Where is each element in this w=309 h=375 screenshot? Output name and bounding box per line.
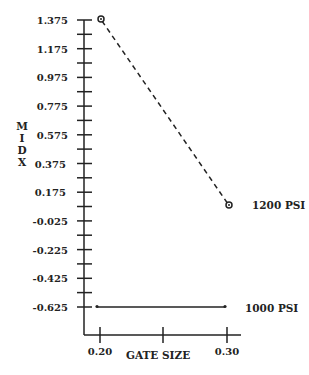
y-tick-label: -0.225 <box>33 245 69 256</box>
x-tick-label: 0.20 <box>88 346 112 357</box>
y-tick-label: 1.375 <box>37 15 68 26</box>
y-tick-label: 0.575 <box>37 130 68 141</box>
y-tick-label: 1.175 <box>37 44 68 55</box>
y-tick-label: 0.975 <box>37 72 68 83</box>
y-tick-label: 0.375 <box>35 159 66 170</box>
svg-text:D: D <box>17 144 26 156</box>
y-tick-label: 0.175 <box>35 187 66 198</box>
y-tick-labels: 1.375 1.175 0.975 0.775 0.575 0.375 0.17… <box>33 15 69 313</box>
series-label-1000-psi: 1000 PSI <box>245 302 298 314</box>
y-tick-label: 0.775 <box>37 101 68 112</box>
y-tick-label: -0.425 <box>33 273 69 284</box>
y-axis-title: M I D X <box>16 120 28 168</box>
midx-chart: 1.375 1.175 0.975 0.775 0.575 0.375 0.17… <box>0 0 309 375</box>
svg-text:I: I <box>20 132 25 144</box>
series-label-1200-psi: 1200 PSI <box>252 199 305 211</box>
svg-text:X: X <box>18 156 27 168</box>
x-tick-label: 0.30 <box>215 346 239 357</box>
x-axis-title: GATE SIZE <box>126 349 190 361</box>
y-tick-label: -0.625 <box>33 302 69 313</box>
y-tick-label: -0.025 <box>33 216 69 227</box>
series-1200-psi-line <box>102 21 228 204</box>
svg-text:M: M <box>16 120 28 132</box>
